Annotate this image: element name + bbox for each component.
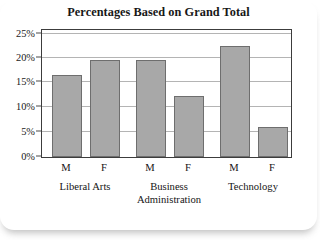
chart-card: Percentages Based on Grand Total 25% 20%… [0, 0, 317, 230]
series-label-technology-m: M [229, 162, 238, 173]
chart-title: Percentages Based on Grand Total [0, 5, 317, 20]
gridline-25 [42, 33, 291, 34]
group-label-technology-line1: Technology [228, 180, 278, 193]
group-label-liberal-arts-line1: Liberal Arts [60, 180, 111, 193]
y-tick-label-10: 10% [0, 101, 35, 112]
group-label-technology: Technology [228, 180, 278, 193]
bar-technology-f [258, 127, 288, 157]
y-tick-label-5: 5% [0, 126, 35, 137]
series-label-technology-f: F [269, 162, 275, 173]
series-label-liberal-arts-f: F [101, 162, 107, 173]
y-tick-label-0: 0% [0, 151, 35, 162]
series-label-business-administration-m: M [145, 162, 154, 173]
y-tick-label-15: 15% [0, 76, 35, 87]
bar-business-administration-m [136, 60, 166, 157]
bar-liberal-arts-f [90, 60, 120, 157]
bar-technology-m [220, 46, 250, 157]
group-label-liberal-arts: Liberal Arts [60, 180, 111, 193]
group-label-business-administration: Business Administration [137, 180, 201, 206]
gridline-20 [42, 57, 291, 58]
series-label-liberal-arts-m: M [61, 162, 70, 173]
bar-business-administration-f [174, 96, 204, 157]
group-label-business-administration-line2: Administration [137, 193, 201, 206]
x-axis: M F M F M F Liberal Arts Business Admini… [41, 158, 292, 228]
plot-area [41, 29, 292, 158]
y-axis: 25% 20% 15% 10% 5% 0% [0, 29, 35, 158]
bar-liberal-arts-m [52, 75, 82, 157]
y-tick-label-25: 25% [0, 28, 35, 39]
y-tick-label-20: 20% [0, 52, 35, 63]
series-label-business-administration-f: F [185, 162, 191, 173]
group-label-business-administration-line1: Business [137, 180, 201, 193]
